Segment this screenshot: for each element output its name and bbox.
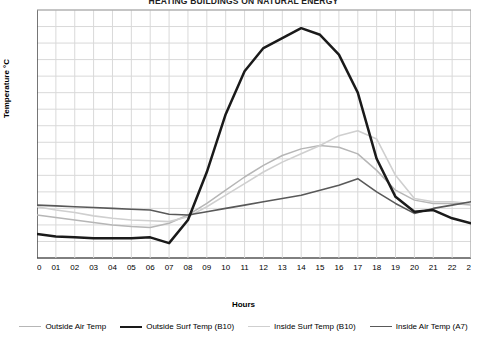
legend-swatch-icon [248,326,270,327]
legend-label: Outside Air Temp [45,322,106,331]
x-tick-label: 01 [51,263,60,272]
x-tick-label: 12 [259,263,268,272]
x-tick-label: 11 [240,263,249,272]
chart-container: HEATING BUILDINGS ON NATURAL ENERGY Temp… [0,0,487,352]
series-line [37,146,471,228]
series-line [37,28,471,243]
x-tick-label: 02 [70,263,79,272]
legend-swatch-icon [19,326,41,327]
x-tick-label: 22 [448,263,457,272]
x-tick-label: 17 [353,263,362,272]
legend-item-outside-surf-temp: Outside Surf Temp (B10) [120,322,234,331]
x-tick-label: 13 [278,263,287,272]
x-tick-label: 08 [184,263,193,272]
x-tick-label: 14 [297,263,306,272]
x-axis-label: Hours [0,300,487,309]
x-tick-label: 03 [89,263,98,272]
x-tick-label: 10 [221,263,230,272]
x-tick-label: 09 [202,263,211,272]
x-tick-label: 15 [316,263,325,272]
legend-label: Inside Air Temp (A7) [396,322,468,331]
legend-item-outside-air-temp: Outside Air Temp [19,322,106,331]
plot-area: 2628303234363840424446485052545600010203… [37,8,471,280]
legend-item-inside-surf-temp: Inside Surf Temp (B10) [248,322,356,331]
x-tick-label: 19 [391,263,400,272]
x-tick-label: 05 [127,263,136,272]
x-tick-label: 04 [108,263,117,272]
chart-title: HEATING BUILDINGS ON NATURAL ENERGY [0,0,487,6]
chart-legend: Outside Air Temp Outside Surf Temp (B10)… [0,322,487,331]
y-axis-label: Temperature °C [2,59,11,118]
series-line [37,179,471,215]
line-chart-svg: 2628303234363840424446485052545600010203… [37,8,471,280]
legend-swatch-icon [120,326,142,328]
x-tick-label: 00 [37,263,42,272]
x-tick-label: 23 [467,263,471,272]
x-tick-label: 16 [334,263,343,272]
legend-label: Outside Surf Temp (B10) [146,322,234,331]
x-tick-label: 07 [165,263,174,272]
legend-label: Inside Surf Temp (B10) [274,322,356,331]
x-tick-label: 06 [146,263,155,272]
x-tick-label: 20 [410,263,419,272]
x-tick-label: 21 [429,263,438,272]
x-tick-label: 18 [372,263,381,272]
legend-item-inside-air-temp: Inside Air Temp (A7) [370,322,468,331]
legend-swatch-icon [370,326,392,327]
